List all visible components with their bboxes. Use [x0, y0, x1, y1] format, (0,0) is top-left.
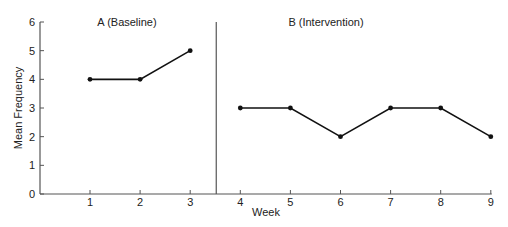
x-tick-label: 4 — [237, 196, 243, 208]
y-tick-label: 2 — [29, 131, 35, 143]
phase-b-label: B (Intervention) — [288, 16, 363, 28]
data-point-marker — [238, 106, 243, 111]
data-point-marker — [338, 134, 343, 139]
data-point-marker — [188, 48, 193, 53]
y-axis-label: Mean Frequency — [12, 66, 24, 149]
x-tick-label: 3 — [187, 196, 193, 208]
y-tick-label: 0 — [29, 188, 35, 200]
x-tick-label: 8 — [438, 196, 444, 208]
data-point-marker — [388, 106, 393, 111]
y-tick-label: 4 — [29, 73, 35, 85]
data-point-marker — [88, 77, 93, 82]
x-tick-label: 1 — [87, 196, 93, 208]
x-tick-label: 5 — [287, 196, 293, 208]
y-tick-label: 5 — [29, 45, 35, 57]
data-point-marker — [138, 77, 143, 82]
phase-b-line — [240, 108, 490, 137]
x-tick-label: 2 — [137, 196, 143, 208]
x-tick-label: 6 — [337, 196, 343, 208]
data-point-marker — [288, 106, 293, 111]
x-tick-label: 9 — [488, 196, 494, 208]
x-tick-label: 7 — [388, 196, 394, 208]
y-tick-label: 6 — [29, 16, 35, 28]
y-tick-label: 3 — [29, 102, 35, 114]
single-case-design-chart: 0123456 123456789 Mean Frequency Week A … — [0, 0, 508, 227]
phase-a-line — [90, 51, 190, 80]
data-series — [88, 48, 494, 139]
y-tick-label: 1 — [29, 159, 35, 171]
x-axis-label: Week — [252, 206, 280, 218]
y-axis: 0123456 — [29, 16, 44, 200]
data-point-marker — [438, 106, 443, 111]
phase-a-label: A (Baseline) — [97, 16, 156, 28]
data-point-marker — [488, 134, 493, 139]
